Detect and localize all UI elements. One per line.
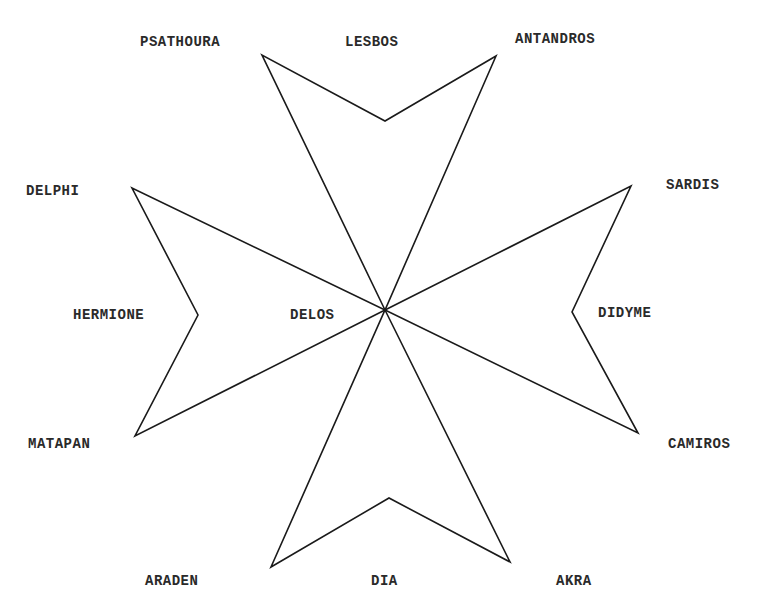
label-psathoura: PSATHOURA: [140, 35, 220, 49]
label-delos: DELOS: [290, 308, 335, 322]
label-antandros: ANTANDROS: [515, 32, 595, 46]
cross-arms: [132, 55, 638, 567]
label-dia: DIA: [371, 574, 398, 588]
label-lesbos: LESBOS: [345, 35, 398, 49]
label-delphi: DELPHI: [26, 184, 79, 198]
cross-arm-west: [132, 188, 385, 436]
center-point: [383, 308, 387, 312]
label-akra: AKRA: [556, 574, 592, 588]
label-hermione: HERMIONE: [73, 308, 144, 322]
label-sardis: SARDIS: [666, 178, 719, 192]
label-camiros: CAMIROS: [668, 437, 730, 451]
label-araden: ARADEN: [145, 574, 198, 588]
label-matapan: MATAPAN: [28, 437, 90, 451]
label-didyme: DIDYME: [598, 306, 651, 320]
